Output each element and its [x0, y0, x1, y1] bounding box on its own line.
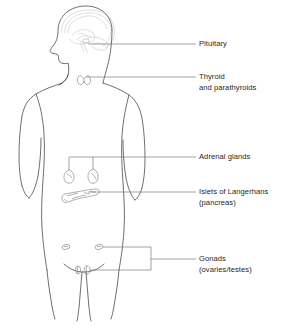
left-leg-outer-path [47, 270, 55, 319]
ovary-right-shape [95, 244, 104, 250]
pancreas-icon [62, 189, 99, 203]
left-shoulder-arm-path [19, 83, 62, 186]
label-thyroid: Thyroid and parathyroids [199, 72, 256, 93]
testis-right-shape [84, 266, 90, 274]
right-hand-path [135, 188, 142, 200]
adrenal-left-shape [64, 170, 74, 183]
label-gonads: Gonads (ovaries/testes) [199, 254, 252, 275]
right-shoulder-arm-path [103, 83, 145, 188]
ovary-left-detail [64, 246, 68, 247]
body-figure-svg [0, 0, 297, 329]
testis-left-shape [75, 266, 80, 274]
brainstem-2-icon [80, 42, 84, 52]
label-thyroid-line1: Thyroid [199, 72, 225, 81]
testis-left-detail [77, 266, 78, 274]
right-inner-arm-path [123, 140, 135, 200]
label-islets-line2: (pancreas) [199, 198, 268, 209]
body-outline-group [19, 6, 145, 321]
torso-right-path [119, 95, 129, 270]
label-pituitary-line1: Pituitary [199, 39, 227, 48]
right-leg-inner-path [86, 272, 91, 321]
cerebellum-fold-icon [93, 43, 105, 46]
label-gonads-line2: (ovaries/testes) [199, 265, 252, 276]
left-inner-arm-path [29, 138, 41, 198]
adrenal-glands-icon [64, 169, 98, 183]
label-adrenal-glands: Adrenal glands [199, 152, 250, 163]
label-gonads-line1: Gonads [199, 254, 226, 263]
label-islets-line1: Islets of Langerhans [199, 187, 268, 196]
adrenal-right-shape [88, 169, 98, 183]
adrenal-left-detail [67, 174, 72, 178]
ovary-right-detail [97, 246, 101, 247]
right-leg-outer-path [111, 270, 119, 319]
brain-inner-contour-icon [65, 13, 111, 46]
brainstem-icon [84, 43, 88, 53]
label-thyroid-line2: and parathyroids [199, 83, 256, 94]
brain-detail-group [62, 10, 115, 53]
label-adrenal-line1: Adrenal glands [199, 152, 250, 161]
endocrine-system-diagram: Pituitary Thyroid and parathyroids Adren… [0, 0, 297, 329]
pancreas-tail-detail [64, 199, 67, 201]
adrenal-right-detail [91, 173, 96, 179]
testis-right-detail [86, 266, 87, 274]
left-hand-path [22, 186, 29, 198]
head-back-path [103, 30, 112, 83]
ovary-left-shape [62, 244, 71, 250]
left-leg-inner-path [77, 272, 82, 321]
brain-cortex-line-icon [68, 16, 107, 33]
ovaries-icon [62, 244, 104, 250]
torso-left-path [36, 94, 47, 270]
corpus-callosum-icon [78, 34, 88, 36]
leader-lines-group [69, 44, 196, 270]
brain-gyrus-3-icon [69, 39, 85, 44]
label-islets-of-langerhans: Islets of Langerhans (pancreas) [199, 187, 268, 208]
testes-icon [75, 266, 90, 274]
label-pituitary: Pituitary [199, 39, 227, 50]
